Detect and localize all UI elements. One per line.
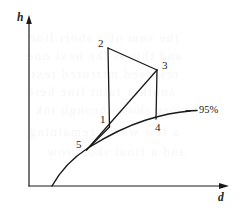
state-point-label-2: 2 [98,38,104,49]
state-point-label-4: 4 [155,122,161,133]
state-point-label-3: 3 [162,60,168,71]
y-axis-label: h [17,12,23,24]
state-point-label-5: 5 [76,139,82,150]
x-axis-arrowhead [219,183,229,189]
curve-label-leader-line [186,111,197,112]
x-axis-label: d [218,192,224,204]
saturation-curve-label: 95% [199,105,218,116]
process-line-5-3 [87,70,158,150]
figure-canvas: the sum of a short line and this is the … [0,0,241,213]
state-point-label-1: 1 [100,114,106,125]
process-line-2-3 [108,48,157,70]
process-line-2-1 [108,48,110,127]
process-line-5-1 [87,127,110,150]
process-line-3-4 [156,70,157,119]
y-axis-arrowhead [26,15,32,24]
saturation-curve-95-percent [52,111,190,186]
